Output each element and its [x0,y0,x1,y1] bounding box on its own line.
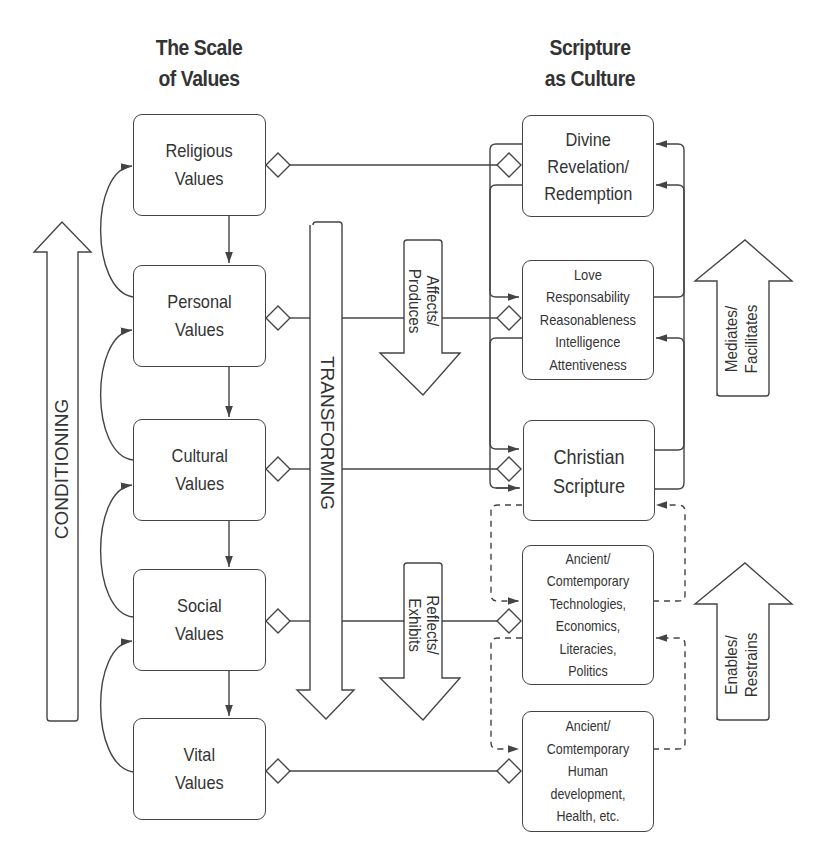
diamond-personal [266,306,290,330]
enables-restrains-label: Enables/ Restrains [722,620,764,710]
box-text: Personal [167,288,232,316]
box-technologies: Ancient/ Comtemporary Technologies, Econ… [522,545,654,685]
box-text: Attentiveness [540,354,636,377]
arrow-text: Restrains [742,620,762,710]
diamond-cultural [266,457,290,481]
box-religious-values: Religious Values [133,114,266,216]
box-text: Intelligence [540,331,636,354]
arrow-text: Facilitates [742,294,762,384]
diamond-vital [266,759,290,783]
box-divine-revelation: Divine Revelation/ Redemption [522,115,654,217]
diamond-religious [266,153,290,177]
affects-produces-label: Affects/ Produces [403,261,441,342]
transforming-label: TRANSFORMING [314,313,340,553]
box-text: Vital [175,741,224,769]
box-christian-scripture: Christian Scripture [523,420,655,521]
box-personal-values: Personal Values [133,265,266,367]
diamond-human-development [497,759,521,783]
diamond-technologies [497,609,521,633]
arrow-text: Enables/ [722,620,742,710]
box-text: Redemption [544,180,632,207]
box-cultural-values: Cultural Values [133,419,266,521]
heading-scale-of-values: The Scale of Values [129,32,270,94]
mediates-facilitates-label: Mediates/ Facilitates [722,294,764,384]
box-text: Scripture [553,471,625,500]
box-text: Technologies, [547,593,629,616]
box-vital-values: Vital Values [133,718,266,820]
box-text: Responsability [540,286,636,309]
box-text: Health, etc. [547,805,629,828]
box-text: Values [175,769,224,797]
diamond-christian-scripture [497,457,521,481]
box-text: Comtemporary [547,570,629,593]
heading-scripture-as-culture: Scripture as Culture [520,32,661,94]
box-text: Cultural [171,442,227,470]
box-text: Reasonableness [540,309,636,332]
box-text: Religious [166,137,233,165]
box-human-development: Ancient/ Comtemporary Human development,… [522,711,654,832]
box-text: Revelation/ [544,153,632,180]
diamond-virtues [497,306,521,330]
conditioning-label: CONDITIONING [49,349,75,589]
reflects-exhibits-label: Reflects/ Exhibits [403,585,441,666]
box-text: Human [547,760,629,783]
box-text: Politics [547,660,629,683]
box-text: Values [175,620,224,648]
box-text: Comtemporary [547,738,629,761]
heading-line: The Scale [129,32,270,63]
box-text: Christian [553,442,625,471]
box-text: Social [175,592,224,620]
box-virtues: Love Responsability Reasonableness Intel… [522,260,654,380]
box-text: Divine [544,126,632,153]
box-text: Values [166,165,233,193]
diamond-social [266,609,290,633]
arrow-text: Reflects/ [423,585,441,666]
box-text: Love [540,264,636,287]
arrow-text: Affects/ [423,261,441,342]
heading-line: Scripture [520,32,661,63]
box-text: Values [167,316,232,344]
box-text: Economics, [547,615,629,638]
arrow-text: Produces [405,261,423,342]
diagram-connectors [0,0,823,855]
arrow-text: Mediates/ [722,294,742,384]
box-text: Literacies, [547,638,629,661]
box-text: Ancient/ [547,548,629,571]
box-text: Ancient/ [547,715,629,738]
heading-line: as Culture [520,63,661,94]
box-text: development, [547,783,629,806]
box-social-values: Social Values [133,569,266,671]
arrow-text: Exhibits [405,585,423,666]
heading-line: of Values [129,63,270,94]
diamond-divine [497,153,521,177]
box-text: Values [171,470,227,498]
